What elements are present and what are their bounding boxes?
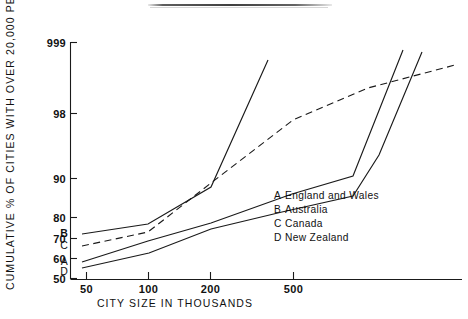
series-line-canada	[82, 65, 455, 246]
legend-key-d: D	[274, 232, 282, 243]
series-line-australia	[82, 60, 268, 234]
y-tick-label-999: 999	[47, 37, 66, 49]
x-tick-label-200: 200	[201, 283, 220, 295]
legend-name-d: New Zealand	[285, 232, 349, 243]
y-tick-label-90: 90	[53, 173, 66, 185]
legend-name-a: England and Wales	[285, 190, 379, 201]
x-tick-label-50: 50	[80, 283, 93, 295]
x-tick-label-100: 100	[139, 283, 158, 295]
legend-name-b: Australia	[285, 204, 328, 215]
y-tick-label-98: 98	[53, 108, 66, 120]
x-axis-title: CITY SIZE IN THOUSANDS	[97, 297, 253, 309]
curve-tag-c: C	[60, 239, 68, 251]
line-chart-plot: 999 98 90 80 70 60 50 50 100 200 500 CIT…	[0, 0, 468, 319]
legend-key-a: A	[274, 190, 281, 201]
x-tick-label-500: 500	[284, 283, 303, 295]
y-tick-label-80: 80	[53, 212, 66, 224]
chart-figure: 999 98 90 80 70 60 50 50 100 200 500 CIT…	[0, 0, 468, 319]
x-axis-ticks	[87, 272, 294, 280]
legend-key-c: C	[274, 218, 282, 229]
y-axis-ticks	[71, 43, 78, 279]
series-line-england-and-wales	[82, 50, 403, 262]
legend-key-b: B	[274, 204, 281, 215]
curve-tag-b: B	[60, 227, 68, 239]
y-axis-title: CUMULATIVE % OF CITIES WITH OVER 20,000 …	[4, 0, 16, 290]
chart-legend: A England and Wales B Australia C Canada…	[274, 190, 379, 243]
legend-name-c: Canada	[285, 218, 323, 229]
curve-tag-d: D	[60, 265, 68, 277]
